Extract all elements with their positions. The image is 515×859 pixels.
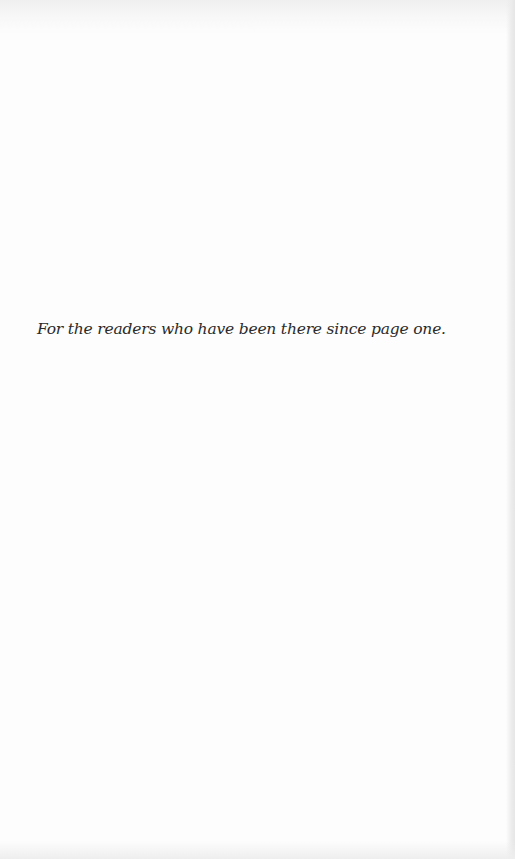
gutter-shadow	[506, 0, 515, 859]
dedication-text: For the readers who have been there sinc…	[37, 318, 446, 340]
scan-shading-bottom	[0, 841, 515, 859]
scan-shading-top	[0, 0, 515, 34]
book-page: For the readers who have been there sinc…	[0, 0, 515, 859]
